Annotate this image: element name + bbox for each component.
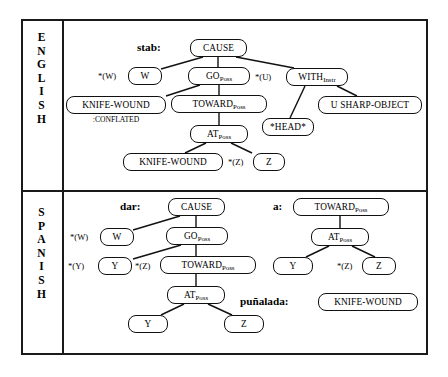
node-knife-wound-spanish[interactable]: KNIFE-WOUND: [318, 293, 418, 311]
node-w-english[interactable]: W: [128, 67, 162, 85]
lang-letter: I: [21, 85, 62, 99]
row-label-english: E N G L I S H: [21, 31, 62, 126]
node-go-poss-english[interactable]: GOPoss: [188, 67, 250, 85]
node-toward-poss-english[interactable]: TOWARDPoss: [171, 95, 267, 113]
role-label-z-english: *(Z): [228, 157, 243, 167]
lang-letter: N: [21, 247, 62, 261]
node-sharp-object-english[interactable]: U SHARP-OBJECT: [318, 96, 422, 114]
node-knife-wound-english[interactable]: KNIFE-WOUND: [123, 153, 223, 171]
lang-letter: E: [21, 31, 62, 45]
node-y-a[interactable]: Y: [273, 257, 313, 275]
role-label-w-spanish: *(W): [70, 232, 88, 242]
node-head-english[interactable]: *HEAD*: [262, 118, 314, 136]
table-vertical-divider: [62, 19, 64, 355]
lang-letter: S: [21, 99, 62, 113]
node-knife-wound-conflated-english[interactable]: KNIFE-WOUND: [66, 96, 166, 114]
lang-letter: N: [21, 45, 62, 59]
lang-letter: P: [21, 220, 62, 234]
node-z-a[interactable]: Z: [362, 257, 396, 275]
annotation-conflated: :CONFLATED: [66, 115, 166, 124]
node-at-poss-a[interactable]: ATPoss: [311, 228, 369, 246]
node-with-instr-english[interactable]: WITHInstr: [286, 68, 348, 86]
lang-letter: L: [21, 72, 62, 86]
role-label-w-english: *(W): [98, 71, 116, 81]
node-toward-poss-spanish[interactable]: TOWARDPoss: [160, 256, 256, 274]
lang-letter: H: [21, 113, 62, 127]
node-at-poss-spanish[interactable]: ATPoss: [167, 286, 225, 304]
lang-letter: S: [21, 274, 62, 288]
word-label-dar: dar:: [120, 200, 141, 212]
node-y-upper-spanish[interactable]: Y: [98, 257, 132, 275]
role-label-z-a: *(Z): [337, 261, 352, 271]
figure-canvas: E N G L I S H S P A N I S H: [0, 0, 448, 377]
role-label-y-spanish: *(Y): [68, 261, 84, 271]
node-w-spanish[interactable]: W: [100, 228, 134, 246]
node-at-poss-english[interactable]: ATPoss: [190, 125, 248, 143]
role-label-u-english: *(U): [255, 72, 271, 82]
node-y-lower-spanish[interactable]: Y: [128, 315, 168, 333]
word-label-a: a:: [273, 200, 282, 212]
table-horizontal-divider: [21, 190, 428, 192]
lang-letter: G: [21, 58, 62, 72]
node-go-poss-spanish[interactable]: GOPoss: [166, 227, 228, 245]
lang-letter: I: [21, 260, 62, 274]
role-label-z-spanish-go: *(Z): [135, 261, 150, 271]
node-z-english[interactable]: Z: [253, 153, 285, 171]
word-label-punalada: puñalada:: [240, 295, 289, 307]
row-label-spanish: S P A N I S H: [21, 206, 62, 301]
node-cause-spanish[interactable]: CAUSE: [168, 198, 225, 216]
node-cause-english[interactable]: CAUSE: [190, 39, 247, 57]
lang-letter: A: [21, 233, 62, 247]
word-label-stab: stab:: [137, 41, 161, 53]
node-z-lower-spanish[interactable]: Z: [224, 315, 264, 333]
lang-letter: S: [21, 206, 62, 220]
node-toward-poss-a[interactable]: TOWARDPoss: [293, 198, 389, 216]
lang-letter: H: [21, 288, 62, 302]
